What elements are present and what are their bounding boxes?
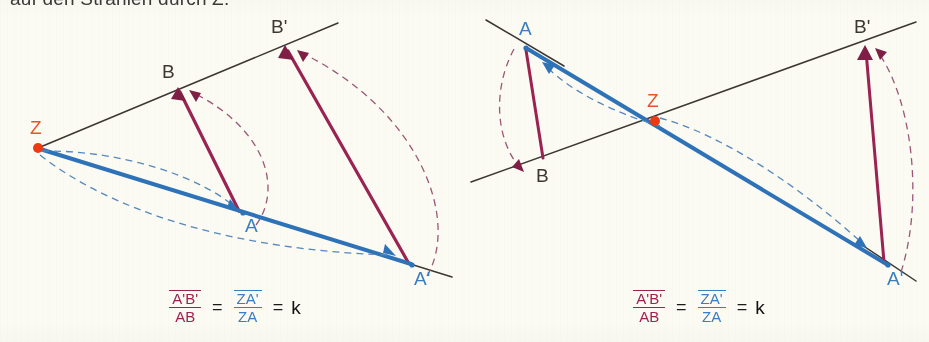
vector-a-prime-b-prime-magenta-right	[857, 45, 884, 262]
label-b: B	[162, 61, 175, 82]
label-a-prime-right: A'	[887, 268, 903, 289]
label-a-prime: A'	[414, 268, 430, 289]
figure-zentrische-streckung-positiv: Z B B' A A' A'B' AB = ZA' ZA = k	[0, 0, 465, 342]
dashed-arc-a-prime-b-prime-magenta	[300, 52, 438, 276]
dashed-arc-a-prime-b-prime-arrowhead-right	[875, 48, 887, 60]
label-z: Z	[30, 117, 42, 138]
vector-a-z-a-prime-blue	[526, 48, 888, 265]
dashed-arc-ab-arrowhead	[189, 90, 201, 102]
ray-line-upper	[38, 23, 338, 148]
dashed-arc-ab-arrowhead-right	[512, 159, 524, 172]
point-marker-a-prime-right	[885, 262, 890, 267]
dashed-arc-a-prime-b-prime-arrowhead	[297, 50, 309, 62]
dashed-arc-za-prime-blue	[660, 118, 862, 243]
ray-line-b-z-b-prime	[471, 22, 916, 182]
label-a-right: A	[519, 18, 532, 39]
label-b-prime: B'	[271, 16, 287, 37]
right-diagram-svg: A Z B B' A'	[464, 0, 929, 342]
center-point-z-right	[650, 116, 660, 126]
point-marker-a-prime	[409, 262, 414, 267]
label-b-right: B	[536, 165, 549, 186]
label-z-right: Z	[647, 90, 659, 111]
label-b-prime-right: B'	[854, 16, 870, 37]
point-marker-a-right	[523, 45, 528, 50]
center-point-z	[33, 143, 43, 153]
dashed-arc-ab-magenta-right	[500, 49, 520, 168]
figure-zentrische-streckung-negativ: A Z B B' A' A'B' AB = ZA' ZA = k	[464, 0, 929, 342]
left-diagram-svg: Z B B' A A'	[0, 0, 465, 342]
vector-ba-magenta	[526, 50, 543, 158]
figure-page: auf den Strahlen durch Z.	[0, 0, 929, 342]
label-a: A	[245, 215, 258, 236]
